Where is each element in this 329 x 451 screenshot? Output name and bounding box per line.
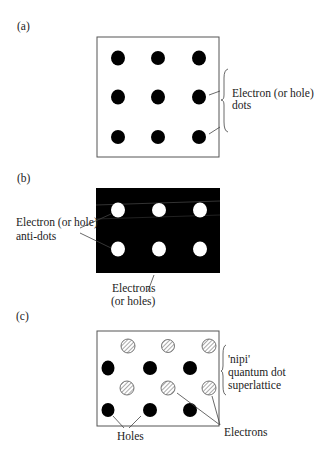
panel-b: (b) Electron (or hole) anti-dots Electro… (16, 172, 220, 308)
antidots-annotation-line1: Electron (or hole) (16, 216, 98, 229)
panel-a-label: (a) (17, 20, 30, 33)
curly-brace (221, 345, 226, 395)
electrons-annotation-line2: (or holes) (111, 295, 156, 308)
dots-annotation-line2: dots (232, 99, 252, 111)
nipi-annotation-line3: superlattice (228, 379, 281, 392)
panel-c: (c) 'nipi' quantum dot superlattice Hole… (16, 310, 287, 442)
panel-a: (a) Electron (or hole) dots (17, 20, 314, 157)
nipi-annotation-line1: 'nipi' (228, 353, 250, 366)
quantum-dot-diagram: (a) Electron (or hole) dots (b) Electron… (0, 0, 329, 451)
holes-label: Holes (117, 430, 144, 442)
electrons-annotation-line1: Electrons (112, 282, 156, 294)
panel-b-label: (b) (17, 172, 31, 185)
panel-c-box (97, 331, 219, 426)
antidots-annotation-line2: anti-dots (16, 230, 57, 242)
electrons-label: Electrons (224, 426, 268, 438)
panel-b-box (96, 188, 220, 273)
nipi-annotation-line2: quantum dot (228, 366, 287, 379)
panel-c-label: (c) (16, 310, 29, 323)
curly-brace (221, 69, 228, 132)
